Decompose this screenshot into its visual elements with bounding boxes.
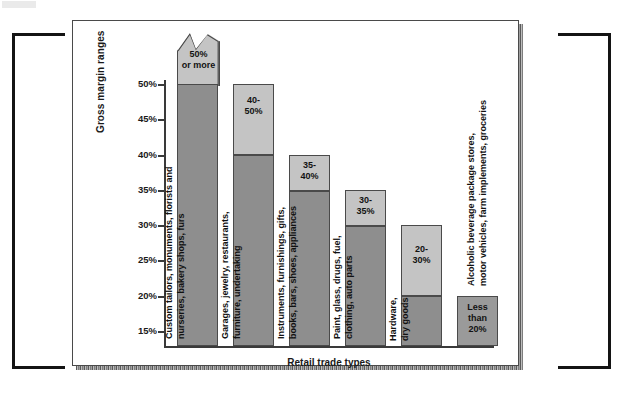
bar-group-2[interactable]: 40-50% Garages, jewelry, restaurants,fur… — [233, 84, 274, 346]
bar-6-range-band: Lessthan20% — [457, 296, 498, 346]
y-tick-label-25: 25% — [121, 254, 157, 265]
y-tick-label-35: 35% — [121, 184, 157, 195]
chart-panel: Gross margin ranges 50% 45% 40% 35% 30% … — [72, 20, 519, 366]
bar-3-trade-band: Instruments, furnishings, gifts,books, b… — [289, 191, 330, 346]
y-tick-label-50: 50% — [121, 78, 157, 89]
bar-group-4[interactable]: 30-35% Paint, glass, drugs, fuel,clothin… — [345, 190, 386, 346]
bar-group-3[interactable]: 35-40% Instruments, furnishings, gifts,b… — [289, 155, 330, 346]
bar-group-5[interactable]: 20-30% Hardware,dry goods — [401, 225, 442, 346]
bar-3-range-band: 35-40% — [289, 155, 330, 191]
y-axis-title: Gross margin ranges — [95, 0, 106, 133]
y-tick-label-15: 15% — [121, 325, 157, 336]
bar-group-6[interactable]: Lessthan20% — [457, 296, 498, 346]
bar-6-category-label: Alcoholic beverage package stores,motor … — [466, 100, 623, 286]
bar-1-range-label: 50%or more — [178, 49, 219, 71]
y-tick-label-45: 45% — [121, 113, 157, 124]
y-tick-label-20: 20% — [121, 290, 157, 301]
scan-artifact — [2, 1, 36, 8]
bar-5-range-band: 20-30% — [401, 225, 442, 296]
y-tick-40 — [158, 155, 165, 157]
bar-1-trade-band: Custom tailors, monuments, florists andn… — [177, 84, 218, 346]
x-axis-line — [164, 346, 494, 348]
bar-5-category-label: Hardware,dry goods — [388, 297, 411, 341]
bar-2-trade-band: Garages, jewelry, restaurants,furniture,… — [233, 155, 274, 346]
bar-2-category-label: Garages, jewelry, restaurants,furniture,… — [220, 212, 243, 339]
bar-3-range-label: 35-40% — [290, 160, 329, 182]
bar-5-range-label: 20-30% — [402, 244, 441, 266]
y-tick-45 — [158, 119, 165, 121]
y-tick-label-40: 40% — [121, 149, 157, 160]
bar-5-trade-band: Hardware,dry goods — [401, 296, 442, 346]
page-bracket-left — [12, 33, 65, 369]
y-tick-label-30: 30% — [121, 219, 157, 230]
plot-area: Gross margin ranges 50% 45% 40% 35% 30% … — [73, 21, 520, 367]
bar-1-category-label: Custom tailors, monuments, florists andn… — [164, 166, 187, 339]
bar-group-1[interactable]: 50%or more Custom tailors, monuments, fl… — [177, 33, 218, 346]
bar-4-trade-band: Paint, glass, drugs, fuel,clothing, auto… — [345, 226, 386, 346]
x-axis-title: Retail trade types — [164, 357, 494, 368]
y-tick-50 — [158, 84, 165, 86]
bar-3-category-label: Instruments, furnishings, gifts,books, b… — [276, 206, 299, 339]
bar-4-range-band: 30-35% — [345, 190, 386, 226]
bar-2-range-label: 40-50% — [234, 95, 273, 117]
bar-4-range-label: 30-35% — [346, 195, 385, 217]
bar-2-range-band: 40-50% — [233, 84, 274, 155]
bar-1-range-band: 50%or more — [177, 33, 220, 86]
bar-4-category-label: Paint, glass, drugs, fuel,clothing, auto… — [332, 235, 355, 339]
bar-6-range-label: Lessthan20% — [458, 302, 497, 335]
